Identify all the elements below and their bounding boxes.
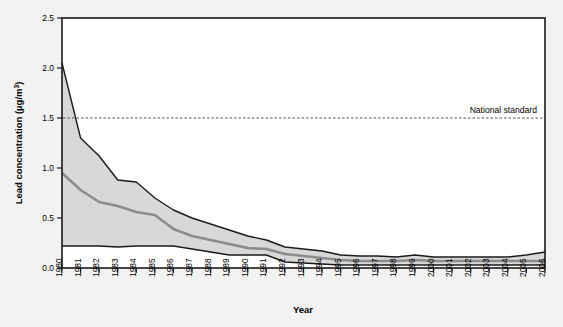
chart-svg: National standard 0.00.51.01.52.02.5 198… <box>0 0 563 327</box>
x-tick-label: 1989 <box>221 258 231 277</box>
y-axis-title: Lead concentration (µg/m3) <box>13 82 24 205</box>
x-tick-label: 1992 <box>277 258 287 277</box>
x-tick-label: 2001 <box>444 258 454 277</box>
svg-text:Lead concentration (µg/m3): Lead concentration (µg/m3) <box>13 82 24 205</box>
y-tick-label: 1.5 <box>42 113 54 123</box>
x-tick-label: 1988 <box>203 258 213 277</box>
x-tick-label: 2002 <box>463 258 473 277</box>
y-tick-label: 2.5 <box>42 13 54 23</box>
national-standard-label: National standard <box>470 105 538 115</box>
x-tick-label: 2004 <box>500 258 510 277</box>
x-tick-label: 1986 <box>165 258 175 277</box>
x-tick-label: 1993 <box>296 258 306 277</box>
y-tick-label: 0.0 <box>42 263 54 273</box>
x-tick-label: 1981 <box>73 258 83 277</box>
x-tick-label: 1998 <box>388 258 398 277</box>
x-tick-label: 2003 <box>481 258 491 277</box>
y-tick-label: 2.0 <box>42 63 54 73</box>
x-tick-label: 1980 <box>54 258 64 277</box>
x-tick-label: 1994 <box>314 258 324 277</box>
x-tick-label: 1982 <box>91 258 101 277</box>
chart-figure: National standard 0.00.51.01.52.02.5 198… <box>0 0 563 327</box>
x-tick-label: 2000 <box>426 258 436 277</box>
x-tick-label: 1984 <box>128 258 138 277</box>
x-tick-label: 1997 <box>370 258 380 277</box>
x-tick-label: 1999 <box>407 258 417 277</box>
x-axis-title: Year <box>293 304 313 315</box>
x-tick-label: 1991 <box>258 258 268 277</box>
x-tick-label: 1983 <box>110 258 120 277</box>
x-tick-label: 1996 <box>351 258 361 277</box>
x-tick-label: 2005 <box>518 258 528 277</box>
x-tick-label: 1995 <box>333 258 343 277</box>
x-tick-label: 1987 <box>184 258 194 277</box>
x-tick-label: 2006 <box>537 258 547 277</box>
x-tick-label: 1985 <box>147 258 157 277</box>
y-tick-label: 1.0 <box>42 163 54 173</box>
y-tick-label: 0.5 <box>42 213 54 223</box>
x-tick-label: 1990 <box>240 258 250 277</box>
